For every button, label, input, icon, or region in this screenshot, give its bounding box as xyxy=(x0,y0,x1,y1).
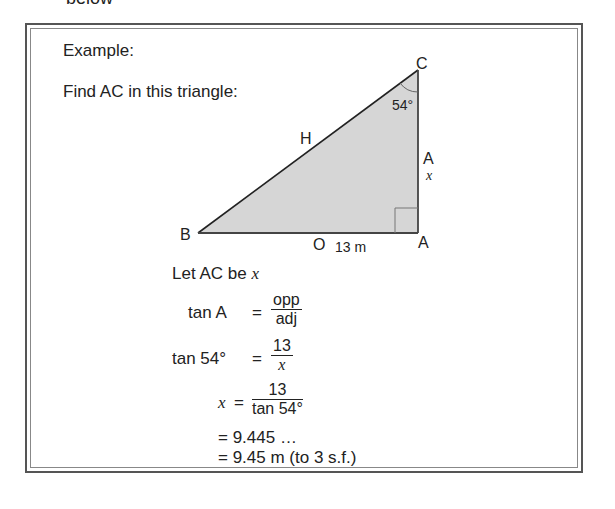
x-lhs: x xyxy=(218,393,226,413)
unknown-x-label: x xyxy=(426,168,432,184)
equals-2: = xyxy=(252,349,262,369)
vertex-a-label: A xyxy=(418,234,429,252)
13-over-tan54: 13tan 54° xyxy=(252,381,303,418)
equals-1: = xyxy=(252,303,262,323)
13-over-x: 13x xyxy=(271,337,293,374)
result-unrounded: = 9.445 … xyxy=(218,428,297,448)
vertex-c-label: C xyxy=(416,55,428,73)
hypotenuse-label: H xyxy=(300,130,312,148)
tan-54-lhs: tan 54° xyxy=(172,349,226,369)
let-statement: Let AC be x xyxy=(172,264,259,284)
opp-over-adj: oppadj xyxy=(271,291,302,328)
tan-a-lhs: tan A xyxy=(188,303,227,323)
base-length-label: 13 m xyxy=(335,239,366,255)
angle-label: 54° xyxy=(392,97,413,113)
equals-3: = xyxy=(234,393,244,413)
adjacent-label: A xyxy=(423,150,434,168)
result-rounded: = 9.45 m (to 3 s.f.) xyxy=(218,448,356,468)
triangle-diagram xyxy=(0,0,615,509)
vertex-b-label: B xyxy=(180,226,191,244)
opposite-label: O xyxy=(313,236,325,254)
